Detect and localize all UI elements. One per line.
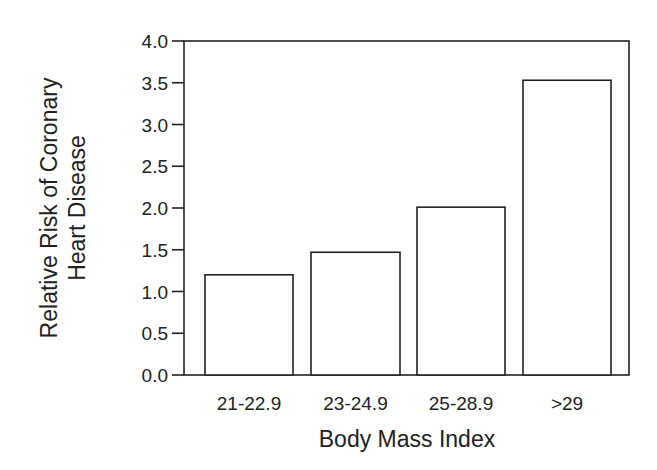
y-tick-label: 2.0 <box>142 198 168 219</box>
x-tick-label: 21-22.9 <box>217 393 281 414</box>
x-tick-label: 23-24.9 <box>323 393 387 414</box>
y-tick-label: 3.5 <box>142 73 168 94</box>
x-axis-title: Body Mass Index <box>319 426 496 452</box>
bar-chart: 0.00.51.01.52.02.53.03.54.0 21-22.923-24… <box>0 0 657 470</box>
y-tick-label: 4.0 <box>142 31 168 52</box>
bars <box>205 80 611 375</box>
y-tick-label: 1.5 <box>142 240 168 261</box>
y-axis-title-line-1: Relative Risk of Coronary <box>36 77 62 338</box>
bar <box>311 252 400 375</box>
x-tick-label: 25-28.9 <box>429 393 493 414</box>
x-axis: 21-22.923-24.925-28.9>29 <box>217 393 583 414</box>
y-tick-label: 3.0 <box>142 115 168 136</box>
bar <box>417 207 505 375</box>
y-tick-label: 0.5 <box>142 323 168 344</box>
y-tick-label: 1.0 <box>142 282 168 303</box>
x-tick-label: >29 <box>551 393 583 414</box>
y-tick-label: 2.5 <box>142 156 168 177</box>
y-axis-title: Relative Risk of Coronary Heart Disease <box>36 77 90 338</box>
y-axis: 0.00.51.01.52.02.53.03.54.0 <box>142 31 184 386</box>
y-tick-label: 0.0 <box>142 365 168 386</box>
bar <box>523 80 611 375</box>
bar <box>205 275 293 375</box>
y-axis-title-line-2: Heart Disease <box>64 135 90 281</box>
